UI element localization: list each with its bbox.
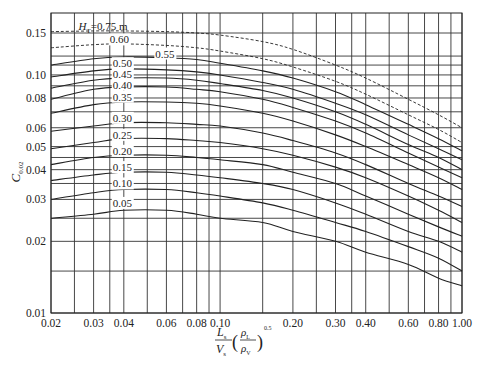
x-tick-label: 0.20 (283, 317, 303, 329)
curve-label: 0.55 (155, 48, 175, 60)
x-tick-label: 0.03 (84, 317, 104, 329)
curve-label: 0.30 (113, 112, 133, 124)
curve-label: 0.35 (113, 91, 133, 103)
svg-text:Vs: Vs (216, 342, 226, 358)
curve-label: 0.40 (113, 79, 133, 91)
x-tick-label: 0.30 (325, 317, 345, 329)
y-tick-label: 0.10 (26, 69, 46, 81)
curve-0.05 (51, 210, 462, 286)
x-tick-label: 0.40 (356, 317, 376, 329)
chart: 0.010.020.030.040.050.060.080.100.15 0.0… (0, 0, 484, 366)
svg-text:): ) (257, 332, 263, 353)
curve-labels: HT=0.75 m0.600.550.500.450.400.350.300.2… (78, 20, 177, 209)
y-tick-label: 0.03 (26, 193, 46, 205)
curve-label: 0.25 (113, 129, 133, 141)
curve-label: 0.60 (110, 33, 130, 45)
curve-label: 0.15 (113, 161, 133, 173)
x-axis-label: Ls Vs ( ρL ρV ) 0.5 (215, 325, 272, 358)
svg-text:ρV: ρV (240, 342, 251, 356)
svg-text:C0.02: C0.02 (8, 161, 25, 182)
y-axis-label: C0.02 (8, 161, 25, 182)
y-tick-label: 0.05 (26, 141, 46, 153)
curve-label: 0.20 (113, 145, 133, 157)
y-axis-ticks: 0.010.020.030.040.050.060.080.100.15 (26, 27, 46, 319)
curve-label: 0.05 (113, 197, 133, 209)
x-axis-ticks: 0.020.030.040.060.080.100.200.300.400.60… (41, 317, 472, 329)
y-tick-label: 0.15 (26, 27, 46, 39)
svg-text:ρL: ρL (240, 326, 250, 340)
y-tick-label: 0.02 (26, 235, 46, 247)
svg-text:(: ( (232, 332, 238, 353)
x-tick-label: 0.06 (156, 317, 176, 329)
y-tick-label: 0.04 (26, 164, 46, 176)
x-tick-label: 0.80 (428, 317, 448, 329)
x-tick-label: 0.02 (41, 317, 61, 329)
y-tick-label: 0.08 (26, 92, 46, 104)
x-tick-label: 0.08 (187, 317, 207, 329)
x-tick-label: 0.60 (398, 317, 418, 329)
x-tick-label: 0.04 (114, 317, 134, 329)
svg-text:0.5: 0.5 (264, 325, 272, 331)
x-tick-label: 1.00 (452, 317, 472, 329)
y-tick-label: 0.06 (26, 122, 46, 134)
curve-label: 0.10 (113, 177, 133, 189)
